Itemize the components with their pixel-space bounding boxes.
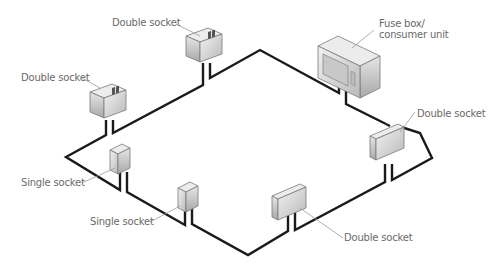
label-double-socket-bottom: Double socket [344,232,412,243]
label-fuse-box-line1: Fuse box/ [379,18,425,29]
label-double-socket-left: Double socket [21,72,89,83]
single-socket-2 [178,182,198,212]
single-socket-1 [110,144,130,174]
ring-circuit-diagram [0,0,499,273]
double-socket-left [90,84,126,118]
label-double-socket-right: Double socket [417,108,485,119]
double-socket-top [186,28,222,62]
label-double-socket-top: Double socket [112,17,180,28]
label-single-socket-2: Single socket [90,216,154,227]
double-socket-right [370,124,404,160]
label-single-socket-1: Single socket [21,177,85,188]
label-fuse-box-line2: consumer unit [379,29,448,40]
fuse-box [318,36,380,98]
double-socket-bottom [272,184,306,220]
